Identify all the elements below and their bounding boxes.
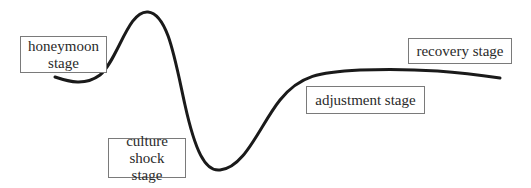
recovery-stage-label: recovery stage xyxy=(408,38,512,64)
culture-shock-line-1: culture shock xyxy=(109,133,185,167)
culture-shock-curve xyxy=(0,0,531,188)
honeymoon-line-2: stage xyxy=(48,55,79,72)
adjustment-stage-label: adjustment stage xyxy=(306,86,425,114)
honeymoon-line-1: honeymoon xyxy=(28,38,99,55)
adjustment-line-1: adjustment stage xyxy=(315,92,415,109)
culture-shock-stage-label: culture shock stage xyxy=(108,138,186,178)
honeymoon-stage-label: honeymoon stage xyxy=(20,36,107,73)
culture-shock-line-2: stage xyxy=(132,167,163,184)
recovery-line-1: recovery stage xyxy=(416,43,503,60)
